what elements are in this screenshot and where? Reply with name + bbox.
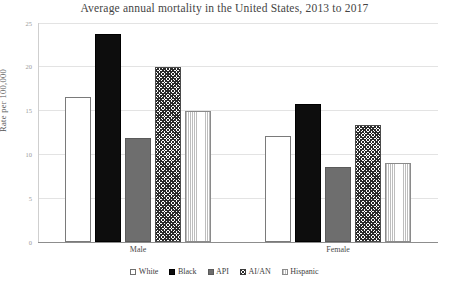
bar-male-aian: [155, 67, 181, 242]
bar-female-white: [265, 136, 291, 242]
legend-item-hispanic: Hispanic: [282, 267, 319, 276]
legend-swatch-api-icon: [208, 269, 214, 275]
bar-male-hispanic: [185, 111, 211, 242]
x-tick-male: Male: [98, 245, 178, 254]
legend-label-hispanic: Hispanic: [290, 267, 318, 276]
y-axis-label: Rate per 100,000: [0, 69, 8, 132]
x-axis-line: [38, 242, 438, 243]
y-tick-20: 20: [10, 63, 32, 70]
bar-male-black: [95, 34, 121, 242]
chart-legend: White Black API AI/AN Hispanic: [0, 267, 449, 276]
legend-swatch-hispanic-icon: [282, 269, 288, 275]
legend-swatch-black-icon: [169, 269, 175, 275]
legend-label-white: White: [139, 267, 159, 276]
legend-label-api: API: [216, 267, 229, 276]
y-tick-25: 25: [10, 20, 32, 27]
legend-item-black: Black: [169, 267, 196, 276]
bar-male-white: [65, 97, 91, 242]
legend-item-api: API: [208, 267, 229, 276]
legend-item-aian: AI/AN: [240, 267, 271, 276]
chart-title: Average annual mortality in the United S…: [0, 2, 449, 14]
y-tick-0: 0: [10, 239, 32, 246]
bar-group-male: [38, 23, 238, 242]
bar-female-aian: [355, 125, 381, 242]
legend-swatch-white-icon: [130, 269, 136, 275]
legend-swatch-aian-icon: [240, 269, 246, 275]
bar-chart: Average annual mortality in the United S…: [0, 0, 449, 281]
bar-groups: [38, 23, 438, 242]
y-tick-5: 5: [10, 195, 32, 202]
y-tick-10: 10: [10, 151, 32, 158]
bar-female-api: [325, 167, 351, 242]
legend-label-aian: AI/AN: [248, 267, 270, 276]
bar-female-black: [295, 104, 321, 242]
bar-group-female: [238, 23, 438, 242]
bar-female-hispanic: [385, 163, 411, 242]
legend-label-black: Black: [178, 267, 197, 276]
x-tick-female: Female: [298, 245, 378, 254]
legend-item-white: White: [130, 267, 158, 276]
y-tick-15: 15: [10, 107, 32, 114]
bar-male-api: [125, 138, 151, 242]
